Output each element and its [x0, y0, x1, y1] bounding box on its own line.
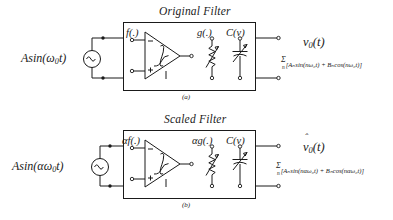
panel-b-schematic: [0, 0, 393, 220]
cap-bottom-node-b: [238, 184, 241, 187]
resistor-arrow-head-b: [215, 155, 218, 158]
nonlinearity-alpha-f-label: αf(.): [122, 136, 140, 147]
ac-source-wave-icon-b: [95, 165, 104, 169]
opamp-output-node-b: [190, 162, 193, 165]
variable-capacitor-C-label-b: C(v): [226, 136, 245, 147]
output-terminal-bottom-b: [277, 184, 280, 187]
source-label-b: Asin(αω0t): [12, 160, 64, 174]
input-terminal-bottom-b: [108, 184, 111, 187]
output-terminal-top-b: [277, 144, 280, 147]
output-series-b: Σn[Aₙsin(nαω₀t) + Bₙcos(nαω₀t)]: [276, 163, 364, 175]
output-label-b: v̂0(t): [303, 141, 325, 154]
variable-conductance-alpha-g-label: αg(.): [192, 136, 212, 147]
opamp-inv-node-b: [130, 146, 133, 149]
ac-source-icon-b: [92, 159, 109, 176]
scaled-filter-title: Scaled Filter: [164, 114, 226, 126]
caption-b: (b): [182, 202, 190, 209]
variable-resistor-icon-b: [209, 154, 215, 175]
res-bottom-node-b: [210, 184, 213, 187]
source-bottom-wire-b: [100, 176, 124, 187]
opamp-noninv-node-b: [130, 177, 133, 180]
input-terminal-top-b: [108, 144, 111, 147]
opamp-plus-icon-b: [148, 176, 153, 181]
cap-plate-bottom-b: [234, 162, 247, 164]
circuit-figure: Original Filter Asin(ω0t) f(.) g(.) C(v)…: [0, 0, 393, 220]
source-top-wire-b: [100, 146, 124, 159]
